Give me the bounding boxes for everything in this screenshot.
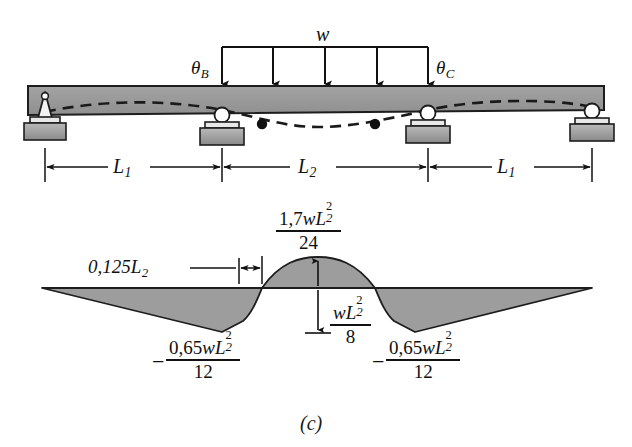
- negative-left-sign: −: [152, 349, 164, 375]
- negative-left-fraction: 0,65wL22 12: [166, 335, 240, 382]
- distributed-load-group: [222, 47, 428, 84]
- reference-numerator: wL22: [330, 300, 371, 323]
- dimension-label-l2: L2: [298, 156, 316, 179]
- offset-value: 0,125: [88, 256, 131, 277]
- roller-ground-pad: [200, 128, 244, 145]
- negative-left-sub: 2: [226, 340, 232, 353]
- dim-l1-right-subscript: 1: [508, 165, 515, 180]
- peak-positive-denominator: 24: [276, 233, 341, 253]
- dim-l1-right-base: L: [497, 155, 508, 177]
- reference-exponent-group: 22: [356, 300, 368, 319]
- negative-right-fraction: 0,65wL22 12: [386, 335, 460, 382]
- theta-b-label: θB: [191, 58, 209, 81]
- dimension-label-l1-left: L1: [113, 156, 131, 179]
- offset-base: L: [131, 256, 142, 277]
- peak-positive-vars: wL: [303, 208, 326, 229]
- dim-l1-left-subscript: 1: [124, 165, 131, 180]
- roller-base-plate: [411, 120, 445, 126]
- theta-b-greek: θ: [191, 57, 200, 78]
- moment-area-negative-right: [375, 288, 592, 332]
- reference-vars: wL: [333, 302, 356, 323]
- negative-right-exponent-group: 22: [446, 335, 458, 354]
- figure-caption-text: (c): [300, 412, 322, 434]
- dim-l2-base: L: [298, 155, 309, 177]
- roller-wheel: [585, 104, 600, 119]
- roller-ground-pad: [406, 126, 450, 143]
- negative-left-denominator: 12: [166, 362, 240, 382]
- load-symbol-label: w: [316, 24, 329, 44]
- inflection-point-right: [370, 119, 380, 129]
- negative-left-vars: wL: [202, 337, 225, 358]
- pin-base-plate: [30, 117, 60, 123]
- roller-base-plate: [575, 118, 609, 124]
- peak-positive-numerator: 1,7wL22: [276, 206, 341, 229]
- negative-left-exponent-group: 22: [226, 335, 238, 354]
- peak-positive-sub: 2: [326, 211, 332, 224]
- theta-c-subscript: C: [445, 66, 454, 81]
- negative-left-coefficient: 0,65: [169, 337, 202, 358]
- reference-sub: 2: [356, 305, 362, 318]
- negative-right-minus: −: [372, 349, 384, 374]
- roller-base-plate: [205, 122, 239, 128]
- moment-area-negative-left: [42, 288, 262, 332]
- negative-left-minus: −: [152, 349, 164, 374]
- peak-positive-exponent-group: 22: [326, 206, 338, 225]
- offset-dimension-group: [190, 256, 262, 284]
- pin-ground-pad: [24, 123, 66, 140]
- inflection-point-left: [257, 119, 267, 129]
- theta-c-label: θC: [436, 58, 454, 81]
- theta-c-greek: θ: [436, 57, 445, 78]
- negative-right-sign: −: [372, 349, 384, 375]
- peak-positive-coefficient: 1,7: [279, 208, 303, 229]
- negative-right-coefficient: 0,65: [389, 337, 422, 358]
- negative-right-denominator: 12: [386, 362, 460, 382]
- figure-root: w θB θC L1 L2 L1 0,125L2 1,7wL22 24 wL22…: [0, 0, 632, 447]
- dim-l2-subscript: 2: [309, 165, 316, 180]
- negative-right-vars: wL: [422, 337, 445, 358]
- offset-dimension-label: 0,125L2: [88, 257, 148, 280]
- negative-right-numerator: 0,65wL22: [386, 335, 460, 358]
- load-symbol-text: w: [316, 23, 329, 45]
- roller-wheel: [421, 106, 436, 121]
- offset-subscript: 2: [141, 265, 148, 280]
- roller-ground-pad: [570, 124, 614, 141]
- theta-b-subscript: B: [200, 66, 208, 81]
- figure-caption: (c): [300, 412, 322, 435]
- negative-right-sub: 2: [446, 340, 452, 353]
- negative-left-numerator: 0,65wL22: [166, 335, 240, 358]
- dimension-label-l1-right: L1: [497, 156, 515, 179]
- reference-ordinate-fraction: wL22 8: [330, 300, 371, 347]
- pin-hole: [42, 93, 49, 100]
- dim-l1-left-base: L: [113, 155, 124, 177]
- reference-denominator: 8: [330, 327, 371, 347]
- roller-wheel: [215, 108, 230, 123]
- peak-positive-fraction: 1,7wL22 24: [276, 206, 341, 253]
